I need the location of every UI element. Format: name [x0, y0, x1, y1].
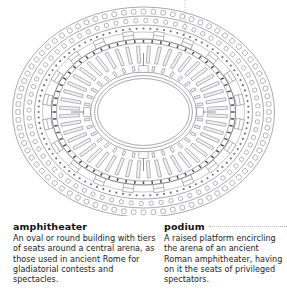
definition-line: Roman amphitheater, having — [164, 254, 287, 264]
outer-wall-inner-ellipse — [24, 16, 264, 208]
definition-line: those used in ancient Rome for — [13, 254, 160, 264]
arena-ellipse — [98, 79, 190, 146]
entry-amphitheater: amphitheater An oval or round building w… — [0, 216, 160, 284]
definition-line: An oval or round building with tiers — [13, 233, 160, 243]
outer-dot-ring — [37, 27, 249, 196]
definition-line: spectacles. — [13, 274, 160, 284]
headword-row-amphitheater: amphitheater — [13, 221, 160, 232]
amphitheater-rings — [13, 7, 275, 216]
radial-seating-walls-inner — [84, 66, 204, 158]
second-ring-ellipse — [35, 25, 253, 199]
definition-line: on it the seats of privileged — [164, 264, 287, 274]
amphitheater-floor-plan-image: .ln { fill:none; stroke:#84848e; stroke-… — [0, 0, 287, 216]
definition-line: of seats around a central arena, as — [13, 243, 160, 253]
definition-line: gladiatorial contests and — [13, 264, 160, 274]
definition-line: the arena of an ancient — [164, 243, 287, 253]
headword-amphitheater: amphitheater — [13, 221, 87, 232]
podium-wall-outer — [91, 72, 197, 152]
definitions-block: amphitheater An oval or round building w… — [0, 216, 287, 297]
second-arcade-openings — [27, 18, 260, 205]
headword-podium: podium — [164, 221, 205, 232]
entry-podium: podium A raised platform encircling the … — [160, 216, 287, 284]
podium-leader-line — [209, 226, 287, 228]
axial-gateways — [71, 53, 216, 171]
podium-wall-inner — [95, 76, 193, 149]
definition-line: A raised platform encircling — [164, 233, 287, 243]
definition-line: spectators. — [164, 274, 287, 284]
definition-podium: A raised platform encircling the arena o… — [164, 233, 287, 284]
headword-row-podium: podium — [164, 221, 287, 232]
illustration-panel: .ln { fill:none; stroke:#84848e; stroke-… — [0, 0, 287, 216]
definition-amphitheater: An oval or round building with tiers of … — [13, 233, 160, 284]
